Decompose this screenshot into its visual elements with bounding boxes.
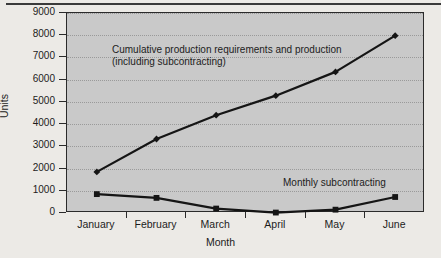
series-line-subcontracting xyxy=(97,194,395,212)
y-axis-tick-label: 6000 xyxy=(0,74,55,84)
y-axis-tick-mark xyxy=(59,12,66,13)
y-axis-tick-mark xyxy=(59,34,66,35)
y-axis-tick-mark xyxy=(59,212,66,213)
y-axis-tick-mark xyxy=(59,190,66,191)
annotation-subcontracting-series: Monthly subcontracting xyxy=(283,177,386,189)
chart-figure: Units 0100020003000400050006000700080009… xyxy=(0,0,441,258)
data-point-marker xyxy=(272,92,279,99)
y-axis-tick-label: 7000 xyxy=(0,51,55,61)
y-axis-tick-mark xyxy=(59,79,66,80)
data-point-marker xyxy=(213,206,219,212)
y-axis-tick-mark xyxy=(59,101,66,102)
data-point-marker xyxy=(213,112,220,119)
data-point-marker xyxy=(94,191,100,197)
y-axis-tick-label: 4000 xyxy=(0,118,55,128)
x-axis-title: Month xyxy=(0,236,441,248)
y-axis-tick-mark xyxy=(59,56,66,57)
y-axis-tick-label: 0 xyxy=(0,207,55,217)
annotation-subcontracting-line1: Monthly subcontracting xyxy=(283,177,386,188)
y-axis-tick-label: 2000 xyxy=(0,163,55,173)
top-divider-rule xyxy=(6,3,441,5)
annotation-cumulative-line2: (including subcontracting) xyxy=(112,56,226,67)
annotation-cumulative-series: Cumulative production requirements and p… xyxy=(112,44,342,67)
x-axis-tick-label: January xyxy=(66,218,126,230)
y-axis-tick-label: 5000 xyxy=(0,96,55,106)
x-axis-tick-label: February xyxy=(126,218,186,230)
x-axis-tick-label: March xyxy=(185,218,245,230)
y-axis-tick-label: 9000 xyxy=(0,7,55,17)
y-axis-tick-label: 1000 xyxy=(0,185,55,195)
y-axis-tick-mark xyxy=(59,168,66,169)
y-axis-tick-mark xyxy=(59,123,66,124)
y-axis-tick-label: 3000 xyxy=(0,140,55,150)
y-axis-tick-label: 8000 xyxy=(0,29,55,39)
y-axis-tick-mark xyxy=(59,145,66,146)
x-axis-tick-label: May xyxy=(305,218,365,230)
annotation-cumulative-line1: Cumulative production requirements and p… xyxy=(112,44,342,55)
data-point-marker xyxy=(273,210,279,216)
data-point-marker xyxy=(333,207,339,213)
data-point-marker xyxy=(392,194,398,200)
x-axis-tick-label: April xyxy=(245,218,305,230)
data-point-marker xyxy=(154,195,160,201)
x-axis-tick-label: June xyxy=(364,218,424,230)
